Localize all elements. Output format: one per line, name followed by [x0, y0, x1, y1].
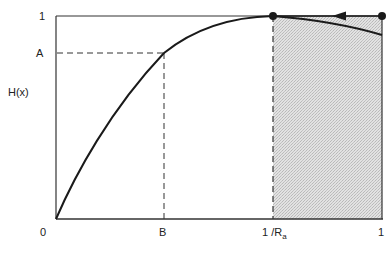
x-tick-B: B	[159, 226, 166, 238]
diagram-canvas: 1 A H(x) 0 B 1 /Ra 1	[0, 0, 391, 259]
x-tick-0: 0	[40, 226, 46, 238]
y-tick-A: A	[36, 47, 44, 59]
y-axis-label: H(x)	[8, 86, 29, 98]
x-tick-1: 1	[378, 226, 384, 238]
x-tick-threshold-sub: a	[282, 232, 287, 241]
point-end	[378, 12, 386, 20]
point-threshold	[269, 12, 277, 20]
y-tick-1: 1	[39, 10, 45, 22]
shaded-region	[273, 16, 382, 219]
x-tick-threshold: 1 /Ra	[262, 226, 287, 241]
x-tick-threshold-main: 1 /R	[262, 226, 282, 238]
